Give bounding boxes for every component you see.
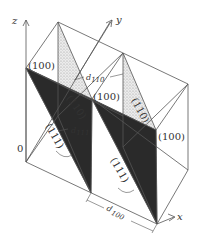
x-axis-arrow-icon: [168, 214, 175, 221]
y-axis-ext: [75, 20, 112, 80]
z-axis-label: z: [11, 15, 18, 26]
plane-100-label-left: (100): [28, 60, 55, 71]
p111-right-callout: [118, 188, 134, 193]
plane-100-label-right: (100): [158, 131, 185, 142]
d110-label: d110: [86, 73, 105, 84]
origin-label: 0: [17, 143, 23, 154]
d100-label: d100: [104, 204, 127, 222]
plane-100-label-mid: (100): [93, 91, 120, 102]
y-axis-label: y: [115, 14, 122, 25]
x-axis: [157, 217, 174, 224]
crystal-planes-diagram: z y x 0 (100) (100) (100) (110) (110) (1…: [0, 0, 197, 235]
d110-leader: [110, 74, 123, 77]
x-axis-label: x: [177, 211, 183, 222]
